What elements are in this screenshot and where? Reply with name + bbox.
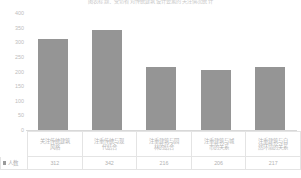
bar[interactable]	[146, 67, 176, 130]
y-axis-tick-label: 50	[2, 112, 24, 118]
bar[interactable]	[92, 30, 122, 130]
category-label-line: 风格	[29, 144, 81, 150]
category-label-line: 代结合	[84, 144, 136, 150]
y-axis-tick-label: 300	[2, 39, 24, 45]
legend-label: 人数	[8, 160, 18, 166]
bar[interactable]	[38, 39, 68, 130]
value-cell: 342	[82, 157, 137, 170]
y-axis-tick-label: 200	[2, 69, 24, 75]
bar-slot	[26, 13, 80, 130]
data-table: 关注传统建筑风格注重传统与现代结合注重建筑与园林的结合注重建筑与城市的关系注重建…	[0, 131, 301, 178]
y-axis-tick-label: 100	[2, 98, 24, 104]
legend-entry: 人数	[1, 157, 28, 170]
chart-title: 图表标题：受访者对传统建筑设计要素的关注情况统计	[0, 0, 301, 5]
table-corner-cell	[1, 132, 28, 157]
bar-chart-figure: 图表标题：受访者对传统建筑设计要素的关注情况统计 400350300250200…	[0, 0, 301, 178]
category-value-table: 关注传统建筑风格注重传统与现代结合注重建筑与园林的结合注重建筑与城市的关系注重建…	[0, 131, 301, 170]
value-cell: 217	[246, 157, 301, 170]
y-axis-tick-label: 350	[2, 25, 24, 31]
category-label-cell: 注重建筑与城市的关系	[191, 132, 246, 157]
category-label-cell: 注重传统与现代结合	[82, 132, 137, 157]
bar-slot	[189, 13, 243, 130]
bar[interactable]	[255, 67, 285, 130]
legend-swatch-icon	[3, 161, 6, 164]
y-axis-tick-label: 400	[2, 10, 24, 16]
table-row-values: 人数 312342216206217	[1, 157, 301, 170]
y-axis-tick-label: 250	[2, 54, 24, 60]
y-axis: 400350300250200150100500	[0, 13, 24, 130]
table-row-labels: 关注传统建筑风格注重传统与现代结合注重建筑与园林的结合注重建筑与城市的关系注重建…	[1, 132, 301, 157]
category-label-line: 市的关系	[193, 144, 245, 150]
category-label-cell: 注重建筑与自然环境的关系	[246, 132, 301, 157]
value-cell: 216	[137, 157, 192, 170]
category-label-line: 然环境的关系	[247, 144, 299, 150]
category-label-cell: 关注传统建筑风格	[28, 132, 83, 157]
y-axis-tick-label: 150	[2, 83, 24, 89]
value-cell: 312	[28, 157, 83, 170]
bar[interactable]	[201, 70, 231, 130]
category-label-cell: 注重建筑与园林的结合	[137, 132, 192, 157]
bar-slot	[134, 13, 188, 130]
bars-container	[26, 13, 297, 130]
value-cell: 206	[191, 157, 246, 170]
bar-slot	[80, 13, 134, 130]
bar-slot	[243, 13, 297, 130]
category-label-line: 林的结合	[138, 144, 190, 150]
